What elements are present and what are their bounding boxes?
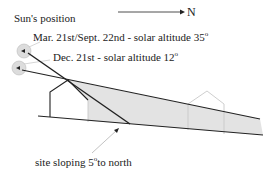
- solar-access-diagram: N Sun's position Mar. 21st/Sept. 22nd - …: [0, 0, 271, 172]
- title-suns-position: Sun's position: [14, 12, 76, 24]
- north-label: N: [187, 5, 196, 19]
- slope-leader: [92, 130, 117, 153]
- slope-label: site sloping 5oto north: [35, 155, 132, 168]
- equinox-label: Mar. 21st/Sept. 22nd - solar altitude 35…: [33, 30, 209, 43]
- winter-label: Dec. 21st - solar altitude 12o: [53, 50, 179, 63]
- sun-winter-icon: [12, 61, 26, 75]
- sun-equinox-icon: [17, 44, 31, 58]
- winter-leader: [24, 60, 50, 64]
- north-arrow: [118, 10, 185, 15]
